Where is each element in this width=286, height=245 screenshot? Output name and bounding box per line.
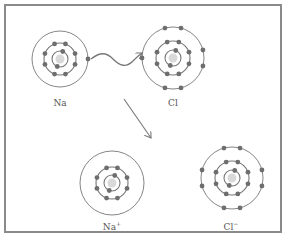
na-atom-label: Na bbox=[53, 98, 66, 108]
electron-dot bbox=[155, 50, 160, 55]
electron-dot bbox=[222, 146, 227, 151]
electron-dot bbox=[201, 48, 206, 53]
electron-dot bbox=[187, 50, 192, 55]
electron-dot bbox=[63, 42, 68, 47]
electron-dot bbox=[187, 61, 192, 66]
diagram-stage: Na Cl Na+ Cl− bbox=[0, 0, 286, 245]
electron-dot bbox=[246, 181, 251, 186]
electron-dot bbox=[55, 64, 60, 69]
electron-dot bbox=[246, 170, 251, 175]
electron-dot bbox=[112, 173, 117, 178]
electron-dot bbox=[95, 175, 100, 180]
electron-dot bbox=[200, 184, 205, 189]
electron-dot bbox=[200, 168, 205, 173]
cl-atom bbox=[140, 26, 206, 91]
electron-dot bbox=[179, 86, 184, 91]
diagram-canvas bbox=[0, 0, 286, 245]
na-atom bbox=[32, 31, 90, 87]
electron-dot bbox=[232, 168, 237, 173]
electron-dot bbox=[163, 26, 168, 31]
cl-ion-label: Cl− bbox=[224, 220, 239, 232]
electron-transfer-arrow bbox=[91, 53, 142, 65]
electron-dot bbox=[235, 160, 240, 165]
electron-dot bbox=[165, 40, 170, 45]
electron-dot bbox=[104, 196, 109, 201]
electron-dot bbox=[43, 62, 48, 67]
electron-dot bbox=[179, 26, 184, 31]
nucleus-icon bbox=[56, 55, 65, 64]
nucleus-icon bbox=[169, 54, 178, 63]
na-ion-charge: + bbox=[116, 220, 121, 227]
electron-dot bbox=[63, 72, 68, 77]
electron-dot bbox=[86, 57, 91, 62]
na-ion-label: Na+ bbox=[103, 220, 121, 232]
cl-atom-label: Cl bbox=[168, 98, 178, 108]
cl-ion-charge: − bbox=[233, 220, 238, 227]
electron-dot bbox=[95, 186, 100, 191]
electron-dot bbox=[104, 166, 109, 171]
electron-dot bbox=[224, 192, 229, 197]
electron-dot bbox=[238, 146, 243, 151]
electron-dot bbox=[107, 188, 112, 193]
electron-dot bbox=[140, 56, 145, 61]
electron-dot bbox=[60, 49, 65, 54]
electron-dot bbox=[227, 183, 232, 188]
electron-dot bbox=[176, 40, 181, 45]
electron-dot bbox=[125, 175, 130, 180]
electron-dot bbox=[214, 181, 219, 186]
electron-dot bbox=[260, 184, 265, 189]
nucleus-icon bbox=[108, 179, 117, 188]
electron-dot bbox=[125, 186, 130, 191]
electron-dot bbox=[43, 51, 48, 56]
electron-dot bbox=[238, 206, 243, 211]
electron-dot bbox=[260, 168, 265, 173]
electron-dot bbox=[176, 72, 181, 77]
electron-dot bbox=[214, 170, 219, 175]
electron-dot bbox=[155, 61, 160, 66]
cl-ion-atom bbox=[200, 146, 265, 211]
electron-dot bbox=[52, 42, 57, 47]
electron-dot bbox=[52, 72, 57, 77]
electron-dot bbox=[173, 48, 178, 53]
electron-dot bbox=[201, 64, 206, 69]
nucleus-icon bbox=[228, 174, 237, 183]
electron-dot bbox=[73, 62, 78, 67]
reaction-arrow bbox=[124, 99, 151, 138]
electron-dot bbox=[163, 86, 168, 91]
electron-dot bbox=[222, 206, 227, 211]
na-ion-atom bbox=[80, 151, 144, 215]
electron-dot bbox=[165, 72, 170, 77]
electron-dot bbox=[168, 63, 173, 68]
electron-dot bbox=[115, 166, 120, 171]
electron-dot bbox=[115, 196, 120, 201]
electron-dot bbox=[235, 192, 240, 197]
electron-dot bbox=[224, 160, 229, 165]
electron-dot bbox=[73, 51, 78, 56]
